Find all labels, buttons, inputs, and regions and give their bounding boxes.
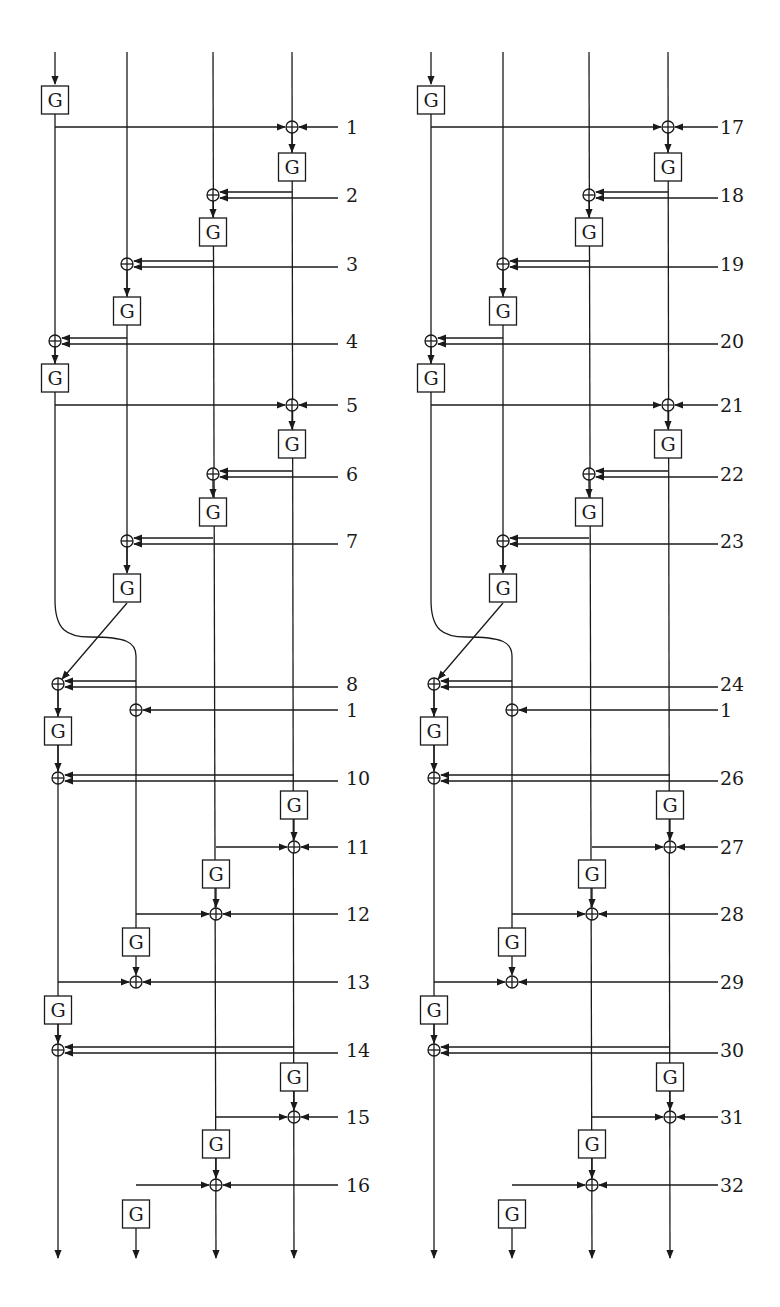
g-box-label: G: [660, 156, 675, 178]
g-function-box: G: [281, 1063, 308, 1091]
round-key-label: 7: [346, 530, 358, 552]
g-box-label: G: [495, 300, 510, 322]
g-function-box: G: [418, 86, 445, 114]
round-key-label: 2: [346, 184, 358, 206]
round-key-label: 5: [346, 394, 358, 416]
g-box-label: G: [584, 863, 599, 885]
round-key-label: 29: [720, 971, 744, 993]
g-function-box: G: [657, 1063, 684, 1091]
right-diagram: 1718192021222324126272829303132GGGGGGGGG…: [418, 52, 745, 1258]
round-key-label: 24: [720, 673, 744, 695]
branch-1-crossing-wire: [55, 114, 136, 928]
g-box-label: G: [284, 433, 299, 455]
g-function-box: G: [490, 297, 517, 325]
round-key-label: 20: [720, 330, 744, 352]
round-key-label: 10: [346, 767, 370, 789]
g-box-label: G: [50, 999, 65, 1021]
round-key-label: 1: [346, 699, 358, 721]
xor-icon: [586, 1179, 598, 1191]
round-key-label: 21: [720, 394, 744, 416]
xor-icon: [497, 535, 509, 547]
g-box-label: G: [128, 931, 143, 953]
xor-icon: [664, 1111, 676, 1123]
g-box-label: G: [423, 89, 438, 111]
g-function-box: G: [45, 717, 72, 745]
xor-icon: [506, 704, 518, 716]
round-key-label: 19: [720, 253, 744, 275]
round-key-label: 6: [346, 463, 358, 485]
round-key-label: 4: [346, 330, 358, 352]
g-box-label: G: [128, 1203, 143, 1225]
g-function-box: G: [421, 717, 448, 745]
g-function-box: G: [200, 498, 227, 526]
g-function-box: G: [655, 430, 682, 458]
g-function-box: G: [45, 996, 72, 1024]
g-box-label: G: [504, 931, 519, 953]
g-box-label: G: [584, 1133, 599, 1155]
g-box-label: G: [284, 156, 299, 178]
xor-icon: [662, 399, 674, 411]
round-key-label: 11: [346, 836, 370, 858]
g-function-box: G: [499, 1200, 526, 1228]
g-box-label: G: [581, 501, 596, 523]
xor-icon: [207, 189, 219, 201]
g-function-box: G: [579, 1130, 606, 1158]
xor-icon: [583, 189, 595, 201]
g-box-label: G: [208, 1133, 223, 1155]
xor-icon: [662, 121, 674, 133]
g-function-box: G: [114, 297, 141, 325]
round-key-label: 18: [720, 184, 744, 206]
xor-icon: [428, 1044, 440, 1056]
g-box-label: G: [423, 367, 438, 389]
xor-icon: [288, 841, 300, 853]
g-box-label: G: [50, 720, 65, 742]
g-box-label: G: [205, 221, 220, 243]
xor-icon: [288, 1111, 300, 1123]
round-key-label: 22: [720, 463, 744, 485]
g-function-box: G: [281, 791, 308, 819]
g-box-label: G: [119, 577, 134, 599]
xor-icon: [49, 335, 61, 347]
xor-icon: [428, 678, 440, 690]
xor-icon: [286, 399, 298, 411]
round-key-label: 14: [346, 1039, 370, 1061]
g-box-label: G: [208, 863, 223, 885]
g-box-label: G: [662, 1066, 677, 1088]
xor-icon: [583, 468, 595, 480]
crossing-diagonal-wire: [438, 603, 503, 679]
xor-icon: [52, 772, 64, 784]
g-function-box: G: [42, 86, 69, 114]
g-function-box: G: [279, 430, 306, 458]
xor-icon: [664, 841, 676, 853]
xor-icon: [210, 1179, 222, 1191]
round-key-label: 28: [720, 903, 744, 925]
round-key-label: 1: [720, 699, 732, 721]
round-key-label: 16: [346, 1174, 370, 1196]
g-function-box: G: [279, 153, 306, 181]
g-function-box: G: [499, 928, 526, 956]
round-key-label: 12: [346, 903, 370, 925]
xor-icon: [586, 908, 598, 920]
g-box-label: G: [205, 501, 220, 523]
g-function-box: G: [123, 928, 150, 956]
g-box-label: G: [504, 1203, 519, 1225]
xor-icon: [130, 976, 142, 988]
g-box-label: G: [286, 1066, 301, 1088]
g-box-label: G: [581, 221, 596, 243]
xor-icon: [286, 121, 298, 133]
g-function-box: G: [114, 574, 141, 602]
round-key-label: 3: [346, 253, 358, 275]
g-function-box: G: [203, 1130, 230, 1158]
xor-icon: [52, 1044, 64, 1056]
round-key-label: 26: [720, 767, 744, 789]
g-function-box: G: [418, 364, 445, 392]
g-box-label: G: [660, 433, 675, 455]
g-function-box: G: [421, 996, 448, 1024]
g-function-box: G: [579, 860, 606, 888]
xor-icon: [52, 678, 64, 690]
xor-icon: [425, 335, 437, 347]
g-box-label: G: [426, 999, 441, 1021]
round-key-label: 15: [346, 1106, 370, 1128]
xor-icon: [121, 258, 133, 270]
g-function-box: G: [42, 364, 69, 392]
